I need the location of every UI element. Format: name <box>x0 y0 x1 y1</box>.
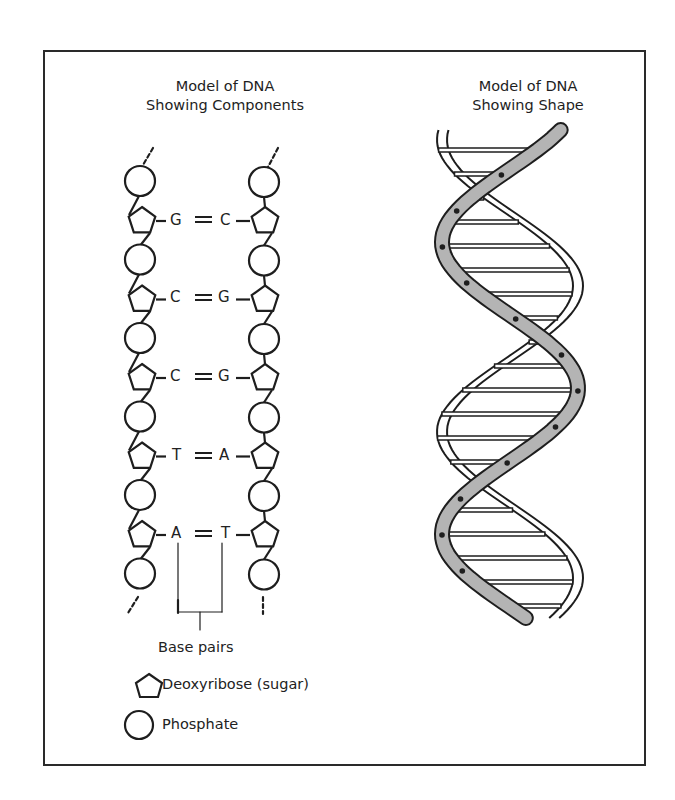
circle-icon <box>125 711 153 739</box>
legend-phosphate-label: Phosphate <box>162 716 238 732</box>
legend-sugar-label: Deoxyribose (sugar) <box>162 676 309 692</box>
pentagon-icon <box>136 674 162 697</box>
legend-icons <box>0 0 675 800</box>
